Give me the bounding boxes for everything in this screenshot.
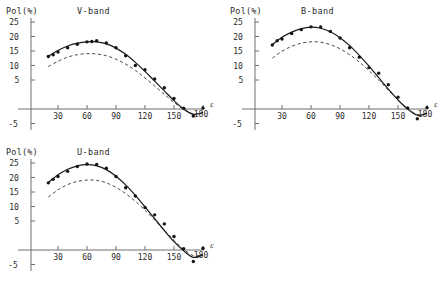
u-band-xtick-120: 120 [138,253,153,262]
b-band-xtick-30: 30 [277,112,287,121]
data-point [163,86,166,89]
u-band-x-axis-label: ε [210,242,214,250]
u-band-ytick-5: 5 [15,217,20,226]
data-point [153,213,156,216]
b-band-plot: Pol(%) B-band 25 20 15 10 5 -5 [224,0,447,142]
b-band-ytick-20: 20 [233,33,243,42]
data-point [85,162,88,165]
v-band-x-axis-label: ε [210,101,214,109]
b-band-ytick-25: 25 [233,18,243,27]
v-band-ytick-neg5: -5 [8,120,18,129]
u-band-solid-curve [48,165,203,258]
u-band-ytick-10: 10 [9,203,19,212]
data-point [319,25,322,28]
data-point [163,222,166,225]
v-band-plot: Pol(%) V-band 25 20 15 10 5 -5 [0,0,224,142]
data-point [182,107,185,110]
data-point [358,55,361,58]
v-band-ytick-5: 5 [15,76,20,85]
data-point [143,206,146,209]
b-band-x-axis-label: ε [434,101,438,109]
panel-b-band: Pol(%) B-band 25 20 15 10 5 -5 [224,0,447,142]
data-point [76,165,79,168]
data-point [275,39,278,42]
u-band-ytick-20: 20 [9,174,19,183]
data-point [300,28,303,31]
data-point [56,50,59,53]
data-point [66,170,69,173]
data-point [348,46,351,49]
data-point [192,114,195,117]
data-point [153,77,156,80]
data-point [182,247,185,250]
data-point [290,32,293,35]
u-band-xtick-90: 90 [111,253,121,262]
u-band-xtick-30: 30 [53,253,63,262]
b-band-ytick-neg5: -5 [232,120,242,129]
v-band-ytick-25: 25 [9,18,19,27]
data-point [201,106,204,109]
b-band-dashed-curve [272,42,427,115]
u-band-ytick-neg5: -5 [8,261,18,270]
u-band-xtick-60: 60 [82,253,92,262]
data-point [105,41,108,44]
v-band-title: V-band [77,6,110,16]
v-band-xtick-150: 150 [167,112,182,121]
b-band-ytick-10: 10 [233,62,243,71]
data-point [51,178,54,181]
u-band-y-axis-label: Pol(%) [6,147,38,157]
v-band-xtick-30: 30 [53,112,63,121]
data-point [396,95,399,98]
v-band-xtick-120: 120 [138,112,153,121]
data-point [387,83,390,86]
data-point [280,37,283,40]
u-band-xtick-150: 150 [167,253,182,262]
data-point [172,235,175,238]
v-band-y-axis-label: Pol(%) [6,6,38,16]
data-point [124,54,127,57]
u-band-title: U-band [77,147,110,157]
b-band-xtick-120: 120 [362,112,377,121]
v-band-dashed-curve [48,54,203,114]
data-point [124,186,127,189]
b-band-xtick-60: 60 [306,112,316,121]
data-point [192,260,195,263]
v-band-xtick-90: 90 [111,112,121,121]
data-point [114,175,117,178]
b-band-title: B-band [301,6,334,16]
data-point [95,163,98,166]
panel-u-band: Pol(%) U-band 25 20 15 10 5 -5 [0,141,224,283]
data-point [377,71,380,74]
u-band-plot: Pol(%) U-band 25 20 15 10 5 -5 [0,141,224,283]
data-point [51,53,54,56]
data-point [56,175,59,178]
data-point [329,30,332,33]
v-band-data-points [47,39,205,118]
data-point [406,106,409,109]
data-point [105,167,108,170]
data-point [95,39,98,42]
panel-v-band: Pol(%) V-band 25 20 15 10 5 -5 [0,0,224,142]
u-band-ytick-15: 15 [9,188,19,197]
b-band-ytick-5: 5 [239,76,244,85]
v-band-ytick-10: 10 [9,62,19,71]
data-point [85,40,88,43]
data-point [90,40,93,43]
data-point [309,25,312,28]
data-point [143,68,146,71]
data-point [66,46,69,49]
u-band-ytick-25: 25 [9,159,19,168]
u-band-dashed-curve [48,180,203,256]
b-band-xtick-90: 90 [335,112,345,121]
data-point [47,55,50,58]
data-point [134,64,137,67]
data-point [338,36,341,39]
v-band-xtick-60: 60 [82,112,92,121]
data-point [76,43,79,46]
v-band-ytick-20: 20 [9,33,19,42]
data-point [114,46,117,49]
data-point [271,43,274,46]
data-point [201,247,204,250]
v-band-solid-curve [48,42,203,115]
b-band-y-axis-label: Pol(%) [230,6,262,16]
